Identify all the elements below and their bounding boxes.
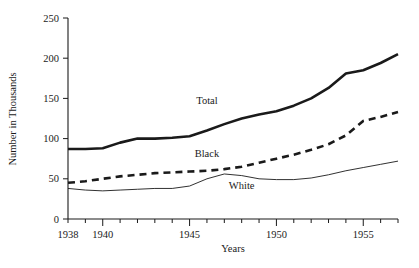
x-tick-label: 1940 bbox=[92, 229, 113, 240]
x-tick-label: 1938 bbox=[58, 229, 79, 240]
series-label-white: White bbox=[229, 180, 255, 191]
x-axis-tick-labels: 19381940194519501955 bbox=[58, 229, 374, 240]
line-chart: 050100150200250 19381940194519501955 Tot… bbox=[0, 0, 419, 268]
y-axis-tick-labels: 050100150200250 bbox=[43, 13, 59, 225]
x-tick-label: 1950 bbox=[266, 229, 287, 240]
series-line-black bbox=[68, 112, 398, 183]
series-label-total: Total bbox=[196, 95, 218, 106]
x-axis-title: Years bbox=[221, 243, 244, 254]
x-tick-label: 1945 bbox=[179, 229, 200, 240]
y-tick-label: 200 bbox=[43, 53, 59, 64]
y-axis-ticks bbox=[63, 18, 68, 219]
y-tick-label: 50 bbox=[49, 173, 60, 184]
y-axis-title: Number in Thousands bbox=[7, 72, 18, 165]
y-tick-label: 0 bbox=[54, 214, 59, 225]
y-tick-label: 100 bbox=[43, 133, 59, 144]
chart-figure: 050100150200250 19381940194519501955 Tot… bbox=[0, 0, 419, 268]
x-axis-ticks bbox=[68, 219, 398, 226]
series-label-black: Black bbox=[195, 148, 220, 159]
series-line-total bbox=[68, 54, 398, 149]
x-tick-label: 1955 bbox=[353, 229, 374, 240]
y-tick-label: 150 bbox=[43, 93, 59, 104]
y-tick-label: 250 bbox=[43, 13, 59, 24]
